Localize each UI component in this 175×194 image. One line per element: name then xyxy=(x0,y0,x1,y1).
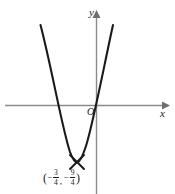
origin-label: O xyxy=(87,107,94,117)
vertex-coordinate-label: ( − 3 4 , − 9 4 ) xyxy=(43,169,80,186)
vertex-x-fraction: 3 4 xyxy=(53,169,59,186)
vertex-y-numerator: 9 xyxy=(70,169,76,177)
vertex-x-cross-icon xyxy=(70,155,84,169)
graph-canvas xyxy=(0,0,175,194)
vertex-y-fraction: 9 4 xyxy=(70,169,76,186)
vertex-separator: , xyxy=(60,177,62,186)
parabola-curve xyxy=(41,25,114,163)
vertex-x-sign: − xyxy=(47,173,52,182)
x-axis-label: x xyxy=(160,108,165,119)
vertex-x-denominator: 4 xyxy=(53,179,59,187)
vertex-close-paren: ) xyxy=(76,172,80,184)
vertex-y-sign: − xyxy=(64,173,69,182)
parabola-graph-figure: y x O ( − 3 4 , − 9 4 ) xyxy=(0,0,175,194)
y-axis-label: y xyxy=(89,7,94,18)
vertex-y-denominator: 4 xyxy=(70,179,76,187)
vertex-x-numerator: 3 xyxy=(53,169,59,177)
